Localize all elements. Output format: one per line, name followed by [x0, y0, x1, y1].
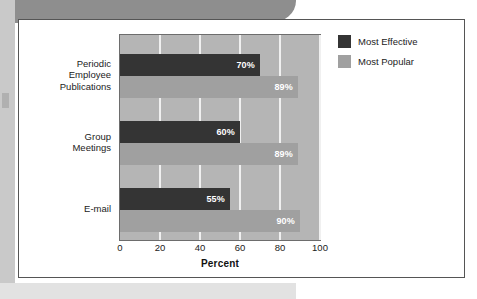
chart-legend: Most Effective Most Popular [338, 35, 458, 75]
x-tick-label: 0 [117, 242, 122, 254]
x-tick-label: 100 [312, 242, 328, 254]
bar-chart: Periodic Employee Publications Group Mee… [19, 20, 464, 277]
legend-item-most-popular: Most Popular [338, 55, 458, 68]
bar-value-label: 55% [206, 195, 230, 204]
category-label: Periodic Employee Publications [60, 58, 111, 93]
page-root: Periodic Employee Publications Group Mee… [0, 0, 477, 299]
category-label: E-mail [84, 203, 111, 215]
legend-item-most-effective: Most Effective [338, 35, 458, 48]
legend-label: Most Popular [358, 56, 414, 68]
x-axis-ticks: 020406080100 [119, 242, 321, 256]
legend-swatch-most-popular [338, 55, 351, 68]
bar: 89% [120, 76, 298, 98]
page-edge-band-bottom [0, 283, 296, 299]
bar-value-label: 70% [236, 61, 260, 70]
bar-value-label: 89% [274, 150, 298, 159]
bar-value-label: 89% [274, 83, 298, 92]
plot-area: 70%89%60%89%55%90% [119, 34, 321, 241]
x-axis-title: Percent [119, 258, 321, 269]
figure-card: Periodic Employee Publications Group Mee… [18, 19, 465, 278]
x-tick-label: 20 [155, 242, 166, 254]
page-edge-artifact [2, 93, 9, 108]
bar-value-label: 60% [216, 128, 240, 137]
x-tick-label: 60 [235, 242, 246, 254]
bar: 70% [120, 54, 260, 76]
x-tick-label: 80 [275, 242, 286, 254]
bar: 60% [120, 121, 240, 143]
bar: 55% [120, 188, 230, 210]
x-tick-label: 40 [195, 242, 206, 254]
bar: 89% [120, 143, 298, 165]
bar: 90% [120, 210, 300, 232]
bar-value-label: 90% [276, 217, 300, 226]
category-label: Group Meetings [72, 131, 111, 154]
page-edge-band-left [0, 0, 15, 292]
legend-swatch-most-effective [338, 35, 351, 48]
category-axis-labels: Periodic Employee Publications Group Mee… [19, 34, 114, 239]
bar-series-container: 70%89%60%89%55%90% [120, 35, 320, 240]
legend-label: Most Effective [358, 36, 418, 48]
